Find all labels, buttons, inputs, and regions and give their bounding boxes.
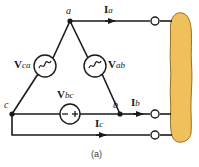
- source-label-vbc: Vbc: [57, 89, 73, 100]
- vca-subscript: ca: [22, 60, 31, 70]
- node-label-b: b: [113, 100, 118, 110]
- vab-symbol-text: V: [108, 58, 116, 70]
- source-vab-symbol: [84, 55, 106, 77]
- source-vbc-symbol: [60, 104, 80, 124]
- vbc-symbol-text: V: [57, 88, 65, 100]
- terminal-c: [151, 131, 159, 139]
- vca-symbol-text: V: [14, 58, 22, 70]
- line-c-wire: [12, 114, 150, 135]
- node-dot-b: [117, 111, 122, 116]
- source-label-vca: Vca: [14, 59, 30, 70]
- circuit-figure: a b c Vca Vab Vbc Ia Ib Ic (a): [0, 0, 199, 167]
- ib-subscript: b: [135, 98, 140, 108]
- source-vca-symbol: [34, 55, 56, 77]
- ia-subscript: a: [108, 5, 113, 15]
- node-label-a: a: [66, 6, 71, 16]
- terminal-b: [151, 110, 159, 118]
- ic-subscript: c: [99, 119, 103, 129]
- current-label-ib: Ib: [131, 97, 140, 108]
- vab-subscript: ab: [116, 60, 125, 70]
- terminal-a: [151, 17, 159, 25]
- load-blob: [170, 13, 192, 142]
- vbc-subscript: bc: [65, 90, 74, 100]
- node-dot-a: [67, 18, 72, 23]
- terminals: [151, 17, 159, 139]
- current-label-ia: Ia: [104, 4, 113, 15]
- node-dot-c: [9, 111, 14, 116]
- circuit-graphics: [0, 0, 199, 167]
- figure-caption: (a): [91, 149, 102, 159]
- node-label-c: c: [4, 100, 8, 110]
- source-label-vab: Vab: [108, 59, 125, 70]
- current-label-ic: Ic: [95, 118, 103, 129]
